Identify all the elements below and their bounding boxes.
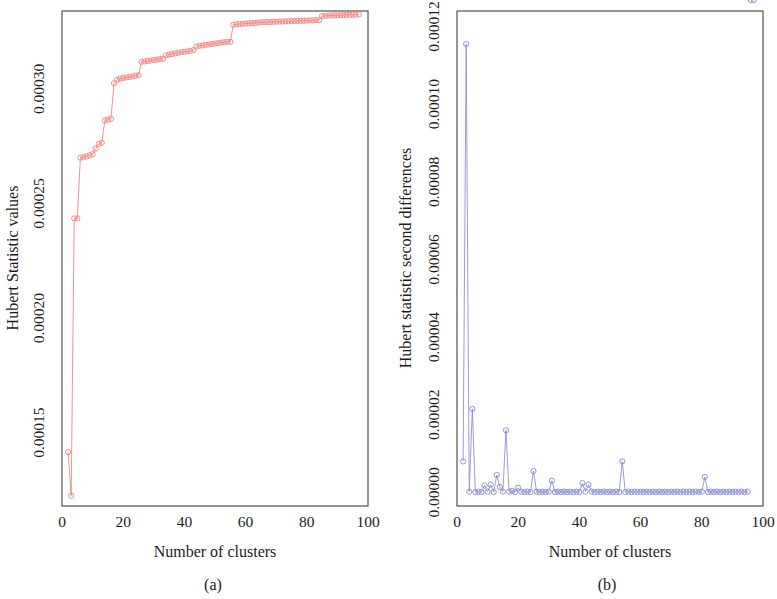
x-tick-label: 60 (633, 513, 649, 530)
y-axis-ticks: 0.000150.000200.000250.00030 (30, 63, 47, 457)
panel-caption: (a) (204, 576, 222, 594)
y-axis-ticks: 0.000000.000020.000040.000060.000080.000… (425, 1, 442, 517)
x-tick-label: 40 (572, 513, 588, 530)
x-tick-label: 40 (177, 513, 193, 530)
x-tick-label: 80 (299, 513, 315, 530)
y-axis-title: Hubert Statistic values (4, 186, 21, 331)
y-tick-label: 0.00006 (425, 234, 442, 285)
y-tick-label: 0.00004 (425, 312, 442, 363)
x-axis-ticks: 020406080100 (453, 513, 775, 530)
x-tick-label: 100 (751, 513, 775, 530)
x-axis-title: Number of clusters (154, 543, 277, 560)
series-markers (66, 12, 362, 498)
series-markers (461, 0, 757, 495)
y-tick-label: 0.00002 (425, 390, 442, 440)
y-tick-label: 0.00020 (30, 293, 47, 344)
panel-caption: (b) (598, 576, 617, 594)
x-tick-label: 60 (238, 513, 254, 530)
x-tick-label: 0 (58, 513, 66, 530)
series-line (68, 14, 359, 495)
y-tick-label: 0.00008 (425, 156, 442, 207)
series-line (463, 44, 748, 492)
y-tick-label: 0.00012 (425, 1, 442, 51)
y-tick-label: 0.00015 (30, 407, 47, 458)
plot-frame (62, 11, 368, 506)
data-point-marker (751, 0, 756, 3)
x-tick-label: 80 (694, 513, 710, 530)
x-axis-ticks: 020406080100 (58, 513, 380, 530)
x-tick-label: 20 (115, 513, 131, 530)
y-tick-label: 0.00000 (425, 467, 442, 518)
x-tick-label: 100 (356, 513, 380, 530)
figure-panel-b: 0204060801000.000000.000020.000040.00006… (389, 0, 777, 599)
plot-frame (457, 11, 763, 506)
x-axis-title: Number of clusters (549, 543, 672, 560)
panel-b-plot: 0204060801000.000000.000020.000040.00006… (389, 0, 777, 599)
y-axis-title: Hubert statistic second differences (397, 148, 414, 369)
y-tick-label: 0.00025 (30, 178, 47, 229)
figure-root: 0204060801000.000150.000200.000250.00030… (0, 0, 777, 599)
figure-panel-a: 0204060801000.000150.000200.000250.00030… (0, 0, 389, 599)
x-tick-label: 20 (510, 513, 526, 530)
x-tick-label: 0 (453, 513, 461, 530)
y-tick-label: 0.00010 (425, 79, 442, 130)
y-tick-label: 0.00030 (30, 63, 47, 114)
panel-a-plot: 0204060801000.000150.000200.000250.00030… (0, 0, 389, 599)
